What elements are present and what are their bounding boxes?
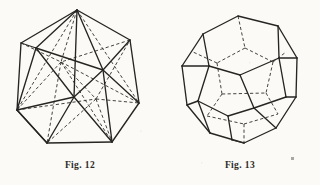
icosahedron-drawing	[0, 0, 160, 160]
scan-speck	[291, 157, 294, 160]
figure-panel-icosahedron: Fig. 12	[0, 0, 160, 185]
figure-caption-13: Fig. 13	[160, 160, 320, 170]
figure-caption-12: Fig. 12	[0, 160, 160, 170]
dodecahedron-drawing	[160, 0, 320, 160]
figure-panel-dodecahedron: Fig. 13	[160, 0, 320, 185]
icosahedron-silhouette	[17, 10, 139, 143]
illustration-plate: Fig. 12	[0, 0, 320, 185]
dodecahedron-silhouette	[182, 16, 297, 143]
